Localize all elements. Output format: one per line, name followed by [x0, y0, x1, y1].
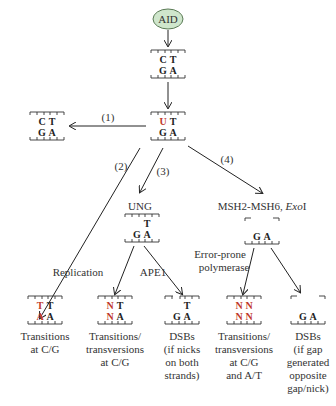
svg-text:G: G — [299, 311, 307, 322]
svg-text:Transitions: Transitions — [20, 330, 69, 342]
svg-text:A: A — [169, 127, 177, 138]
svg-text:T: T — [184, 300, 191, 311]
svg-text:A: A — [116, 311, 124, 322]
svg-text:T: T — [47, 300, 54, 311]
svg-text:G: G — [159, 127, 167, 138]
arrow-gap — [271, 248, 300, 292]
svg-text:U: U — [159, 116, 166, 127]
dna-out-replication: N T N A — [98, 296, 132, 324]
caption-errorprone: Transitions/ transversions at C/G and A/… — [215, 330, 273, 381]
svg-text:G: G — [159, 65, 167, 76]
svg-text:Transitions/: Transitions/ — [218, 330, 271, 342]
svg-text:T: T — [144, 218, 151, 229]
pathway-3-label: (3) — [157, 165, 170, 178]
dna-initial: C T G A — [151, 50, 185, 78]
svg-text:T: T — [170, 116, 177, 127]
svg-text:T: T — [37, 300, 44, 311]
svg-text:A: A — [309, 311, 317, 322]
svg-text:(if gap: (if gap — [293, 343, 323, 356]
svg-text:(if nicks: (if nicks — [164, 343, 200, 356]
svg-text:at C/G: at C/G — [229, 356, 258, 368]
svg-text:DSBs: DSBs — [169, 330, 195, 342]
svg-text:gap/nick): gap/nick) — [287, 382, 329, 395]
caption-transitions: Transitions at C/G — [20, 330, 69, 355]
svg-text:at C/G: at C/G — [100, 356, 129, 368]
svg-text:N: N — [235, 311, 243, 322]
msh-label: MSH2-MSH6, ExoI — [218, 200, 307, 212]
svg-text:strands): strands) — [165, 369, 200, 382]
aid-label: AID — [158, 13, 178, 25]
svg-text:transversions: transversions — [215, 343, 273, 355]
errorprone-label-1: Error-prone — [194, 248, 246, 260]
svg-text:C: C — [159, 54, 166, 65]
svg-text:on both: on both — [165, 356, 199, 368]
svg-text:N: N — [235, 300, 243, 311]
caption-ape1: DSBs (if nicks on both strands) — [164, 330, 200, 382]
svg-text:N: N — [106, 300, 114, 311]
svg-text:at C/G: at C/G — [30, 343, 59, 355]
dna-msh-gap: G A — [245, 218, 279, 244]
ung-label: UNG — [128, 200, 152, 212]
svg-text:A: A — [263, 231, 271, 242]
aid-node: AID — [153, 9, 183, 29]
svg-text:G: G — [173, 311, 181, 322]
svg-text:N: N — [245, 311, 253, 322]
caption-gap: DSBs (if gap generated opposite gap/nick… — [287, 330, 330, 395]
svg-text:T: T — [170, 54, 177, 65]
dna-out-errorprone: N N N N — [227, 296, 261, 324]
arrow-pathway-2 — [40, 148, 140, 318]
dna-ung-abasic: T G A — [125, 214, 159, 242]
caption-replication: Transitions/ transversions at C/G — [86, 330, 144, 368]
svg-text:T: T — [117, 300, 124, 311]
arrow-replication — [115, 246, 134, 294]
svg-text:transversions: transversions — [86, 343, 144, 355]
ape1-label: APE1 — [140, 266, 166, 278]
svg-text:Transitions/: Transitions/ — [89, 330, 142, 342]
dna-out-ape1: T G A — [165, 296, 199, 324]
dna-out-gap: G A — [291, 296, 325, 324]
svg-text:A: A — [169, 65, 177, 76]
svg-text:generated: generated — [287, 356, 330, 368]
pathway-2-label: (2) — [115, 160, 128, 173]
svg-text:and A/T: and A/T — [226, 369, 262, 381]
svg-text:A: A — [36, 311, 44, 322]
dna-deaminated: U T G A — [151, 112, 185, 140]
svg-text:N: N — [245, 300, 253, 311]
pathway-4-label: (4) — [221, 153, 234, 166]
pathway-1-label: (1) — [102, 111, 115, 124]
svg-text:T: T — [49, 116, 56, 127]
svg-text:opposite: opposite — [289, 369, 326, 381]
errorprone-label-2: polymerase — [199, 261, 250, 273]
svg-text:G: G — [38, 127, 46, 138]
svg-text:DSBs: DSBs — [295, 330, 321, 342]
svg-text:A: A — [46, 311, 54, 322]
svg-text:G: G — [253, 231, 261, 242]
svg-text:A: A — [143, 229, 151, 240]
svg-text:C: C — [38, 116, 45, 127]
svg-text:A: A — [48, 127, 56, 138]
replication-label: Replication — [53, 266, 104, 278]
diagram-canvas: AID C T G A U T G A (1) C T G A (2) (3) … — [0, 0, 336, 406]
svg-text:N: N — [106, 311, 114, 322]
dna-repaired: C T G A — [30, 112, 64, 140]
svg-text:A: A — [183, 311, 191, 322]
svg-text:G: G — [133, 229, 141, 240]
